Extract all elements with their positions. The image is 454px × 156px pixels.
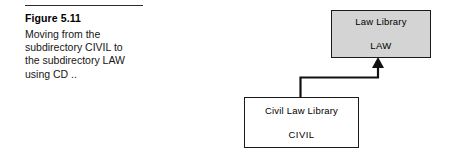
figure-caption-block: Figure 5.11 Moving from the subdirectory… (25, 5, 155, 81)
caption-line-3: the subdirectory LAW (25, 54, 155, 67)
node-law-title: Law Library (355, 16, 406, 28)
figure-canvas: Figure 5.11 Moving from the subdirectory… (0, 0, 454, 156)
figure-title: Figure 5.11 (25, 12, 155, 25)
caption-divider (25, 5, 143, 6)
caption-line-4: using CD .. (25, 68, 155, 81)
caption-line-1: Moving from the (25, 28, 155, 41)
caption-line-2: subdirectory CIVIL to (25, 41, 155, 54)
node-civil-name: CIVIL (289, 129, 315, 141)
figure-caption-text: Moving from the subdirectory CIVIL to th… (25, 28, 155, 81)
connector-path (301, 66, 379, 97)
arrowhead-icon (372, 57, 384, 68)
node-civil-law-library[interactable]: Civil Law Library CIVIL (244, 97, 359, 148)
node-law-library[interactable]: Law Library LAW (331, 10, 431, 58)
node-law-name: LAW (370, 40, 391, 52)
node-civil-title: Civil Law Library (265, 105, 338, 117)
